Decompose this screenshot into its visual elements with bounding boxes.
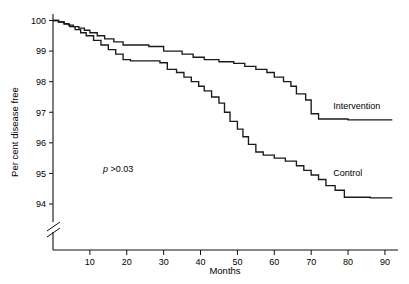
y-tick-group: 949596979899100: [31, 16, 53, 210]
p-value-annotation: p >0.03: [102, 164, 133, 174]
series-label-intervention: Intervention: [333, 101, 380, 111]
y-tick-label: 99: [36, 46, 46, 56]
step-survival-chart: 949596979899100 102030405060708090 Inter…: [0, 0, 409, 284]
x-tick-label: 90: [380, 257, 390, 267]
x-tick-label: 10: [85, 257, 95, 267]
y-tick-label: 98: [36, 77, 46, 87]
x-tick-label: 40: [196, 257, 206, 267]
series-label-control: Control: [333, 168, 362, 178]
series-label-group: InterventionControl: [333, 101, 380, 178]
x-tick-label: 60: [269, 257, 279, 267]
figure-container: 949596979899100 102030405060708090 Inter…: [0, 0, 409, 284]
y-tick-label: 95: [36, 169, 46, 179]
y-tick-label: 100: [31, 16, 46, 26]
x-tick-label: 70: [306, 257, 316, 267]
x-tick-label: 30: [159, 257, 169, 267]
x-tick-label: 80: [343, 257, 353, 267]
p-value-text: >0.03: [108, 164, 133, 174]
x-tick-label: 20: [122, 257, 132, 267]
y-axis-title: Per cent disease free: [9, 87, 20, 177]
y-tick-label: 96: [36, 138, 46, 148]
x-axis-title: Months: [209, 265, 240, 276]
y-tick-label: 94: [36, 199, 46, 209]
y-tick-label: 97: [36, 108, 46, 118]
